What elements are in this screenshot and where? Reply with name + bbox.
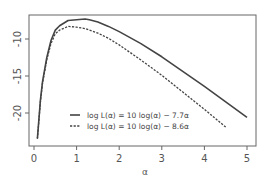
chart: 012345 -10-15-20 log L(α) = 10 log(α) − …	[0, 0, 270, 188]
series-layer	[37, 19, 247, 139]
y-tick-label: -15	[12, 68, 23, 84]
x-tick-label: 5	[244, 153, 250, 164]
x-tick-label: 0	[31, 153, 37, 164]
y-axis: -10-15-20	[12, 31, 29, 121]
series-line-solid	[37, 19, 247, 138]
legend-label-solid: log L(α) = 10 log(α) − 7.7α	[87, 111, 189, 120]
legend: log L(α) = 10 log(α) − 7.7α log L(α) = 1…	[70, 111, 189, 131]
x-tick-label: 4	[201, 153, 207, 164]
y-tick-label: -10	[12, 31, 23, 47]
legend-label-dashed: log L(α) = 10 log(α) − 8.6α	[87, 122, 189, 131]
x-tick-label: 3	[159, 153, 165, 164]
y-tick-label: -20	[12, 105, 23, 121]
x-axis-title: α	[142, 167, 148, 177]
x-tick-label: 1	[73, 153, 79, 164]
x-axis: 012345	[31, 146, 250, 164]
x-tick-label: 2	[116, 153, 122, 164]
